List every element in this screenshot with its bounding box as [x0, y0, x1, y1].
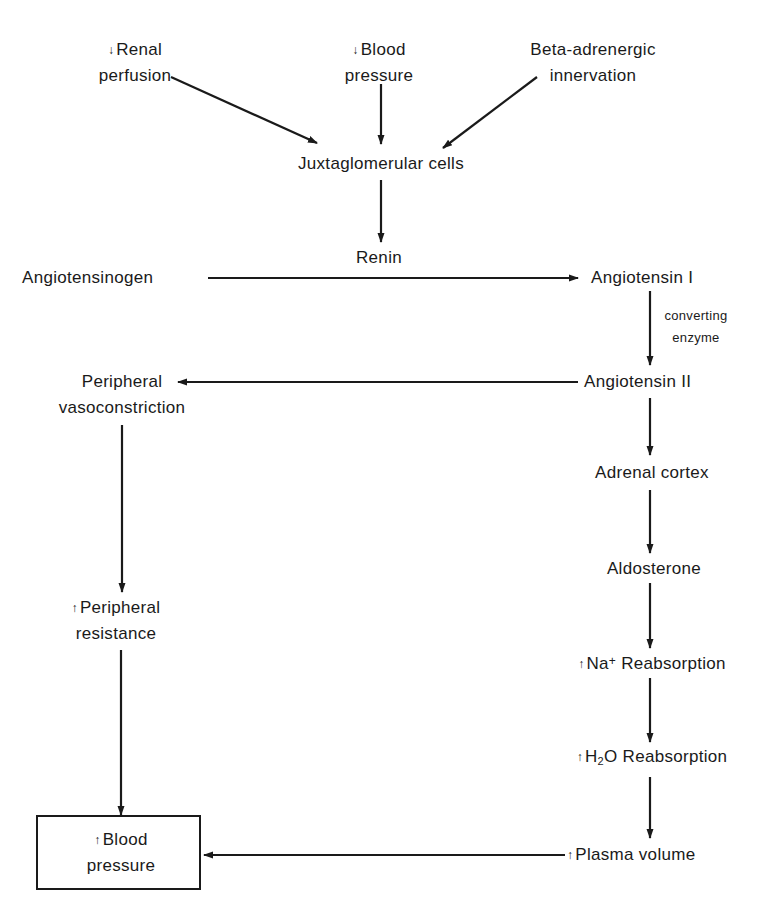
node-aldosterone: Aldosterone: [607, 556, 701, 582]
connector-arrows: [0, 0, 774, 914]
arrow-beta-to-jg: [443, 77, 537, 148]
node-blood-pressure-decreased: ↓Blood pressure: [345, 37, 414, 89]
increase-arrow-icon: ↑: [567, 842, 573, 868]
node-peripheral-vasoconstriction: Peripheral vasoconstriction: [59, 369, 186, 421]
node-angiotensinogen: Angiotensinogen: [22, 265, 153, 291]
arrow-renal-to-jg: [171, 77, 317, 143]
node-beta-adrenergic-innervation: Beta-adrenergic innervation: [530, 37, 655, 89]
label-converting-enzyme: converting enzyme: [665, 305, 728, 349]
node-renal-perfusion: ↓Renal perfusion: [99, 37, 172, 89]
node-juxtaglomerular-cells: Juxtaglomerular cells: [298, 151, 464, 177]
increase-arrow-icon: ↑: [577, 744, 583, 770]
node-h2o-reabsorption: ↑H2O Reabsorption: [577, 744, 728, 770]
increase-arrow-icon: ↑: [94, 827, 100, 853]
label-renin: Renin: [356, 245, 402, 271]
node-angiotensin-1: Angiotensin I: [591, 265, 693, 291]
node-na-reabsorption: ↑Na+ Reabsorption: [578, 651, 726, 677]
increase-arrow-icon: ↑: [578, 651, 584, 677]
node-plasma-volume: ↑Plasma volume: [567, 842, 695, 868]
node-angiotensin-2: Angiotensin II: [584, 369, 691, 395]
diagram-canvas: ↓Renal perfusion ↓Blood pressure Beta-ad…: [0, 0, 774, 914]
decrease-arrow-icon: ↓: [352, 37, 358, 63]
decrease-arrow-icon: ↓: [108, 37, 114, 63]
node-peripheral-resistance: ↑Peripheral resistance: [72, 595, 161, 647]
node-blood-pressure-increased: ↑Blood pressure: [87, 827, 156, 879]
increase-arrow-icon: ↑: [72, 595, 78, 621]
node-adrenal-cortex: Adrenal cortex: [595, 460, 709, 486]
